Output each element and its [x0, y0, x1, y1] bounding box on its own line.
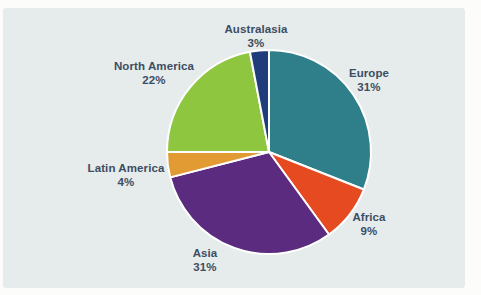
slice-label-asia: Asia31%	[193, 247, 218, 274]
slice-label-australasia: Australasia3%	[224, 23, 287, 50]
slice-label-name: Europe	[349, 67, 389, 81]
slice-label-percent: 31%	[349, 80, 389, 94]
slice-label-name: Asia	[193, 247, 218, 261]
slice-label-name: Latin America	[88, 162, 165, 176]
slice-label-percent: 22%	[114, 73, 194, 87]
slice-label-name: Australasia	[224, 23, 287, 37]
pie-chart: Europe31%Africa9%Asia31%Latin America4%N…	[0, 0, 481, 295]
slice-label-percent: 9%	[352, 224, 385, 238]
slice-label-percent: 3%	[224, 36, 287, 50]
slice-label-percent: 4%	[88, 175, 165, 189]
slice-label-latin-america: Latin America4%	[88, 162, 165, 189]
slice-label-europe: Europe31%	[349, 67, 389, 94]
slice-label-name: North America	[114, 60, 194, 74]
slice-label-percent: 31%	[193, 260, 218, 274]
slice-label-north-america: North America22%	[114, 60, 194, 87]
slice-label-africa: Africa9%	[352, 211, 385, 238]
figure-page: Europe31%Africa9%Asia31%Latin America4%N…	[0, 0, 481, 295]
slice-label-name: Africa	[352, 211, 385, 225]
